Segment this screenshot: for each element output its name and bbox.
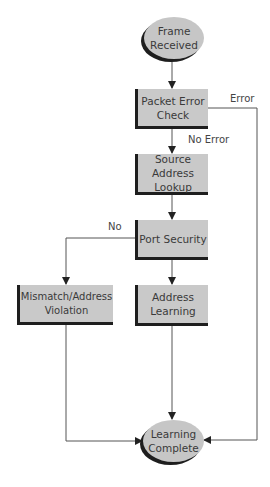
- node-mismatch-address-violation: Mismatch/Address Violation: [17, 285, 113, 325]
- arrow-error-to-complete: [204, 108, 257, 440]
- node-label: Learning Complete: [148, 427, 199, 455]
- node-label: Packet Error Check: [141, 94, 204, 122]
- arrow-port-security-to-mismatch: [66, 238, 135, 284]
- node-label: Source Address Lookup: [138, 152, 208, 194]
- node-learning-complete: Learning Complete: [143, 420, 204, 462]
- node-frame-received: Frame Received: [144, 17, 204, 59]
- edge-label-no-error: No Error: [188, 134, 229, 145]
- node-port-security: Port Security: [135, 220, 208, 260]
- node-packet-error-check: Packet Error Check: [135, 89, 208, 129]
- node-label: Mismatch/Address Violation: [21, 290, 112, 318]
- node-address-learning: Address Learning: [135, 285, 208, 326]
- node-label: Port Security: [139, 232, 206, 246]
- edge-label-no: No: [108, 221, 122, 232]
- flowchart-canvas: Frame Received Packet Error Check Source…: [0, 0, 270, 487]
- node-label: Frame Received: [150, 24, 198, 52]
- edge-label-error: Error: [230, 93, 254, 104]
- arrow-mismatch-to-complete: [66, 325, 142, 441]
- node-label: Address Learning: [150, 290, 196, 318]
- node-source-address-lookup: Source Address Lookup: [135, 154, 208, 195]
